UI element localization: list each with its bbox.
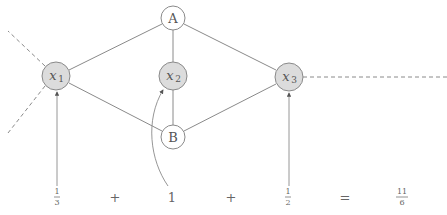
fraction-numerator: 1 [54, 187, 59, 196]
node-A-label: A [167, 11, 178, 26]
node-x1-subscript: 1 [58, 74, 64, 84]
node-B: B [161, 125, 185, 149]
plus-operator: + [110, 190, 121, 205]
node-x3-subscript: 3 [291, 75, 297, 85]
fraction-denominator: 6 [399, 198, 404, 207]
fraction-denominator: 2 [285, 198, 290, 207]
node-x1-label: x [49, 68, 57, 83]
fraction-denominator: 3 [54, 198, 59, 207]
fraction-numerator: 11 [397, 187, 407, 196]
node-x3-label: x [282, 69, 290, 84]
edge-A-x1 [69, 24, 162, 70]
fraction-numerator: 1 [285, 187, 290, 196]
term-one: 1 [168, 190, 176, 205]
plus-operator: + [226, 190, 237, 205]
dashed-edge-x1-lower [8, 86, 45, 133]
edge-A-x3 [184, 24, 276, 70]
dashed-edge-x1-upper [8, 31, 45, 66]
term-one-third: 1 3 [54, 187, 60, 207]
node-B-label: B [168, 130, 178, 145]
term-result: 11 6 [396, 187, 408, 207]
edge-B-x1 [69, 83, 162, 131]
edge-B-x3 [184, 84, 276, 131]
node-A: A [161, 6, 185, 30]
node-x2-subscript: 2 [175, 74, 181, 84]
node-x2: x 2 [159, 62, 187, 90]
term-one-half: 1 2 [285, 187, 291, 207]
node-x1: x 1 [42, 62, 70, 90]
equals-operator: = [340, 190, 351, 205]
node-x2-label: x [166, 68, 174, 83]
node-x3: x 3 [275, 63, 303, 91]
graph-diagram: A B x 1 x 2 x 3 1 3 + 1 + 1 2 = 11 6 [0, 0, 447, 215]
